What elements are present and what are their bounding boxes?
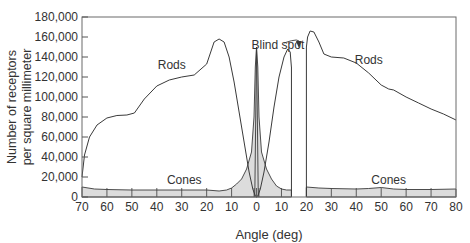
y-tick-label: 40,000 (41, 150, 78, 164)
y-tick-label: 20,000 (41, 170, 78, 184)
x-tick-label: 50 (375, 200, 389, 214)
y-axis-title-line1: Number of receptors (5, 50, 19, 164)
y-axis-title-line2: per square millimeter (20, 49, 34, 166)
cones-label: Cones (167, 173, 202, 187)
x-tick-label: 60 (399, 200, 413, 214)
receptor-density-chart: 020,00040,00060,00080,000100,000120,0001… (0, 0, 470, 243)
x-tick-label: 50 (125, 200, 139, 214)
y-tick-label: 80,000 (41, 110, 78, 124)
x-tick-label: 20 (300, 200, 314, 214)
x-tick-label: 40 (350, 200, 364, 214)
x-tick-label: 60 (100, 200, 114, 214)
x-tick-label: 0 (253, 200, 260, 214)
x-tick-label: 10 (275, 200, 289, 214)
y-tick-label: 160,000 (35, 30, 79, 44)
x-tick-label: 20 (200, 200, 214, 214)
x-tick-label: 30 (175, 200, 189, 214)
rods-label: Rods (355, 53, 383, 67)
x-axis-title: Angle (deg) (235, 227, 302, 242)
cones-label: Cones (371, 173, 406, 187)
y-axis: 020,00040,00060,00080,000100,000120,0001… (35, 10, 88, 204)
y-tick-label: 180,000 (35, 10, 79, 24)
y-tick-label: 60,000 (41, 130, 78, 144)
y-tick-label: 140,000 (35, 50, 79, 64)
x-axis: 7060504030201001020304050607080 (75, 200, 463, 214)
x-tick-label: 30 (325, 200, 339, 214)
x-tick-label: 10 (225, 200, 239, 214)
x-tick-label: 40 (150, 200, 164, 214)
y-tick-label: 120,000 (35, 70, 79, 84)
rods-label: Rods (158, 58, 186, 72)
inline-labels: RodsRodsConesConesBlind spot (158, 38, 406, 187)
rods-curve (306, 31, 456, 120)
x-tick-label: 70 (75, 200, 89, 214)
y-tick-label: 100,000 (35, 90, 79, 104)
x-tick-label: 70 (424, 200, 438, 214)
x-tick-label: 80 (449, 200, 463, 214)
